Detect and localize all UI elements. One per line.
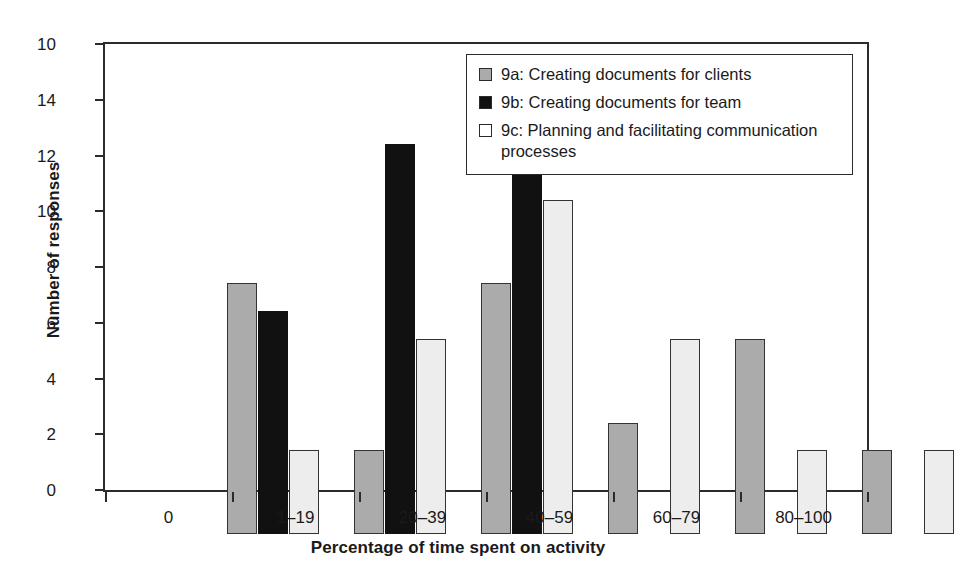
x-tick-mark (867, 492, 869, 502)
y-tick-label: 14 (0, 91, 56, 108)
legend-label: 9c: Planning and facilitating communicat… (501, 120, 842, 164)
y-tick-label: 12 (0, 147, 56, 164)
x-tick-label: 80–100 (734, 508, 874, 528)
y-tick-label: 0 (0, 482, 56, 499)
y-tick-label: 10 (0, 36, 56, 53)
x-axis-title: Percentage of time spent on activity (0, 538, 916, 558)
bar-series-b-20–39 (512, 172, 542, 534)
x-tick-label: 0 (99, 508, 239, 528)
y-tick-label: 4 (0, 370, 56, 387)
x-tick-mark (105, 492, 107, 502)
x-tick-mark (232, 492, 234, 502)
legend-label: 9b: Creating documents for team (501, 92, 741, 114)
x-tick-mark (486, 492, 488, 502)
bar-series-b-1–19 (385, 144, 415, 534)
x-tick-label: 40–59 (480, 508, 620, 528)
legend-swatch-icon (479, 124, 492, 137)
y-tick-label: 10 (0, 203, 56, 220)
y-tick-label: 6 (0, 314, 56, 331)
bar-series-c-20–39 (543, 200, 573, 535)
legend-item: 9b: Creating documents for team (479, 92, 842, 114)
legend-item: 9c: Planning and facilitating communicat… (479, 120, 842, 164)
legend-swatch-icon (479, 96, 492, 109)
x-tick-mark (359, 492, 361, 502)
x-tick-mark (740, 492, 742, 502)
x-tick-label: 20–39 (353, 508, 493, 528)
legend-swatch-icon (479, 68, 492, 81)
x-tick-label: 60–79 (607, 508, 747, 528)
y-axis-ticks: 0246810121410 (0, 0, 103, 577)
legend-label: 9a: Creating documents for clients (501, 64, 751, 86)
chart-legend: 9a: Creating documents for clients9b: Cr… (466, 54, 853, 175)
bar-series-c-80–100 (924, 450, 954, 534)
x-tick-mark (613, 492, 615, 502)
x-tick-label: 1–19 (226, 508, 366, 528)
y-tick-label: 2 (0, 426, 56, 443)
legend-item: 9a: Creating documents for clients (479, 64, 842, 86)
y-tick-label: 8 (0, 259, 56, 276)
